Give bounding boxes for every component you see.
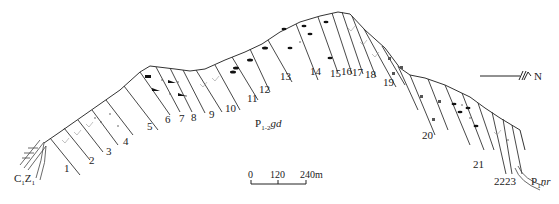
bedding-lines	[50, 12, 522, 175]
scale-tick-0: 0	[248, 170, 253, 180]
north-label: N	[534, 71, 542, 82]
layer-label-9: 9	[209, 109, 215, 120]
layer-label-7: 7	[179, 113, 185, 124]
layer-label-6: 6	[165, 114, 171, 125]
layer-label-4: 4	[123, 136, 129, 147]
layer-label-23: 23	[505, 176, 516, 187]
formation-label-right: P1nr	[531, 176, 550, 192]
layer-label-16: 16	[341, 66, 352, 77]
layer-label-11: 11	[247, 93, 258, 104]
formation-label-center: P1-2gd	[255, 118, 281, 134]
cross-section-diagram: N C1Z1 P1-2gd P1nr 0 120 240m 1234567891…	[0, 0, 559, 204]
layer-label-15: 15	[330, 68, 341, 79]
layer-label-1: 1	[64, 163, 70, 174]
layer-label-10: 10	[225, 103, 236, 114]
scale-tick-120: 120	[270, 170, 285, 180]
layer-label-19: 19	[383, 77, 394, 88]
layer-label-14: 14	[310, 66, 321, 77]
layer-label-22: 22	[494, 176, 505, 187]
north-arrow	[480, 71, 531, 80]
lithology-checks	[62, 26, 501, 143]
layer-label-12: 12	[259, 84, 270, 95]
layer-label-21: 21	[473, 159, 484, 170]
scale-tick-240m: 240m	[300, 170, 323, 180]
scale-bar	[251, 180, 306, 184]
layer-label-5: 5	[147, 121, 153, 132]
layer-label-13: 13	[280, 71, 291, 82]
layer-label-18: 18	[365, 69, 376, 80]
layer-label-17: 17	[352, 67, 363, 78]
lithology-squares	[388, 57, 441, 121]
layer-label-2: 2	[89, 155, 95, 166]
layer-label-8: 8	[191, 112, 197, 123]
formation-label-left: C1Z1	[14, 173, 35, 189]
layer-label-3: 3	[106, 146, 112, 157]
layer-label-20: 20	[422, 130, 433, 141]
